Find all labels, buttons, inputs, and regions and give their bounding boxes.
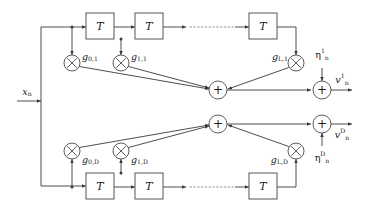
bottom-summing-wires xyxy=(79,125,288,148)
diagram-canvas: xn T T T g0,1 xyxy=(0,0,365,213)
top-summing-wires xyxy=(79,67,288,90)
bottom-output-adder-glyph: + xyxy=(317,117,327,131)
top-output-adder: + xyxy=(313,81,331,99)
top-gain-label-2: gL,1 xyxy=(272,51,288,62)
top-gain-label-0: g0,1 xyxy=(82,51,98,62)
block-diagram-figure: xn T T T g0,1 xyxy=(0,0,365,213)
top-output-label: v1n xyxy=(335,71,348,86)
bottom-multiplier-1 xyxy=(113,143,129,159)
bottom-summer-glyph: + xyxy=(213,117,223,131)
bottom-summer: + xyxy=(209,115,227,133)
bottom-noise-label: ηDn xyxy=(315,149,330,164)
bottom-multiplier-0 xyxy=(64,143,80,159)
top-noise-label: η1n xyxy=(315,46,329,61)
bottom-output-adder: + xyxy=(313,115,331,133)
input-trunk xyxy=(17,27,86,186)
bottom-multiplier-2 xyxy=(288,143,304,159)
top-gain-label-1: g1,1 xyxy=(131,51,147,62)
top-output-adder-glyph: + xyxy=(317,83,327,97)
bottom-delay-line: T T T xyxy=(86,173,277,199)
input-signal-label: xn xyxy=(22,86,31,97)
bottom-gain-label-0: g0,D xyxy=(82,154,99,165)
top-multiplier-2 xyxy=(288,55,304,71)
bottom-output-label: vDn xyxy=(335,126,349,141)
top-delay-line: T T T xyxy=(86,13,277,39)
top-summer: + xyxy=(209,81,227,99)
bottom-gain-label-2: gL,D xyxy=(271,154,288,165)
top-summer-glyph: + xyxy=(213,83,223,97)
bottom-gain-label-1: g1,D xyxy=(131,154,148,165)
top-multiplier-1 xyxy=(113,55,129,71)
top-multiplier-0 xyxy=(64,55,80,71)
